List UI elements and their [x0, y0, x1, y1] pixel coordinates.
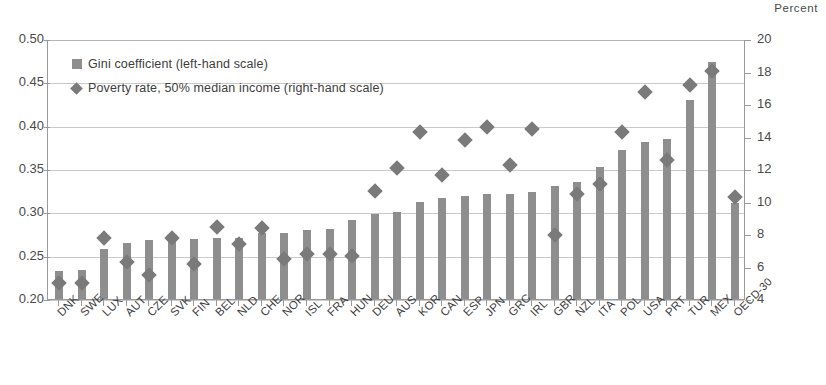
marker-JPN: [479, 120, 495, 136]
x-axis-tick: [666, 300, 667, 306]
bar-ESP: [461, 196, 469, 299]
x-axis-tick: [576, 300, 577, 306]
marker-GBR: [547, 227, 563, 243]
bar-TUR: [686, 100, 694, 299]
left-axis-tick: [44, 213, 50, 214]
marker-NOR: [277, 251, 293, 267]
legend-label-gini: Gini coefficient (left-hand scale): [88, 57, 268, 71]
bar-CAN: [438, 198, 446, 299]
x-axis-tick: [441, 300, 442, 306]
marker-IRL: [524, 121, 540, 137]
right-axis-tick-label: 6: [757, 259, 764, 274]
x-axis-labels: DNKSWELUXAUTCZESVKFINBELNLDCHENORISLFRAH…: [0, 306, 826, 385]
bar-IRL: [528, 192, 536, 299]
right-axis-tick-label: 8: [757, 226, 764, 241]
x-axis-tick: [216, 300, 217, 306]
left-axis-tick: [44, 40, 50, 41]
bar-USA: [641, 142, 649, 299]
marker-GRC: [502, 157, 518, 173]
right-axis-tick: [745, 170, 751, 171]
x-axis-tick: [374, 300, 375, 306]
x-axis-tick: [351, 300, 352, 306]
chart-legend: Gini coefficient (left-hand scale) Pover…: [72, 52, 384, 100]
left-axis-tick-label: 0.40: [19, 118, 44, 133]
marker-SWE: [74, 276, 90, 292]
legend-item-poverty: Poverty rate, 50% median income (right-h…: [72, 76, 384, 100]
marker-ITA: [592, 176, 608, 192]
marker-CZE: [142, 267, 158, 283]
marker-AUT: [119, 254, 135, 270]
left-axis-tick: [44, 300, 50, 301]
right-axis-tick: [745, 235, 751, 236]
x-axis-tick: [103, 300, 104, 306]
x-axis-tick: [734, 300, 735, 306]
x-axis-tick: [261, 300, 262, 306]
marker-CHE: [254, 220, 270, 236]
marker-NZL: [569, 186, 585, 202]
marker-TUR: [682, 77, 698, 93]
marker-PRT: [659, 152, 675, 168]
right-axis-tick: [745, 138, 751, 139]
x-axis-tick: [486, 300, 487, 306]
x-axis-tick: [148, 300, 149, 306]
bar-GRC: [506, 194, 514, 299]
marker-HUN: [344, 248, 360, 264]
marker-AUS: [389, 160, 405, 176]
x-axis-tick: [238, 300, 239, 306]
right-axis-tick-label: 14: [757, 129, 771, 144]
gini-poverty-chart: Percent DNKSWELUXAUTCZESVKFINBELNLDCHENO…: [0, 0, 826, 385]
bar-JPN: [483, 194, 491, 299]
bar-OECD-30: [731, 203, 739, 299]
marker-FRA: [322, 246, 338, 262]
right-axis-tick: [745, 203, 751, 204]
marker-OECD-30: [727, 189, 743, 205]
bar-MEX: [708, 62, 716, 300]
right-axis-tick-label: 12: [757, 161, 771, 176]
x-axis-tick: [126, 300, 127, 306]
right-axis-tick: [745, 40, 751, 41]
bar-KOR: [416, 202, 424, 299]
bar-LUX: [100, 249, 108, 299]
bar-ISL: [303, 230, 311, 299]
marker-SVK: [164, 230, 180, 246]
right-axis-tick: [745, 268, 751, 269]
bar-CHE: [258, 233, 266, 299]
x-axis-tick: [193, 300, 194, 306]
x-axis-tick: [531, 300, 532, 306]
x-axis-tick: [283, 300, 284, 306]
x-axis-tick: [509, 300, 510, 306]
marker-DNK: [52, 276, 68, 292]
bar-AUS: [393, 212, 401, 300]
marker-USA: [637, 84, 653, 100]
x-axis-tick: [711, 300, 712, 306]
x-axis-tick: [306, 300, 307, 306]
bar-SVK: [168, 240, 176, 299]
right-axis-tick-label: 16: [757, 96, 771, 111]
diamond-swatch-icon: [70, 82, 83, 95]
x-axis-tick: [464, 300, 465, 306]
x-axis-tick: [396, 300, 397, 306]
right-axis-tick: [745, 105, 751, 106]
marker-MEX: [704, 63, 720, 79]
legend-item-gini: Gini coefficient (left-hand scale): [72, 52, 384, 76]
marker-KOR: [412, 124, 428, 140]
left-axis-tick: [44, 257, 50, 258]
marker-ESP: [457, 133, 473, 149]
left-axis-tick-label: 0.45: [19, 74, 44, 89]
left-axis-tick-label: 0.30: [19, 204, 44, 219]
marker-CAN: [434, 167, 450, 183]
right-axis-tick-label: 18: [757, 64, 771, 79]
right-axis-tick-label: 4: [757, 291, 764, 306]
marker-LUX: [97, 230, 113, 246]
bar-AUT: [123, 243, 131, 299]
marker-FIN: [187, 256, 203, 272]
x-axis-tick: [171, 300, 172, 306]
left-axis-tick: [44, 83, 50, 84]
x-axis-tick: [554, 300, 555, 306]
bar-FRA: [326, 229, 334, 299]
left-axis-tick-label: 0.20: [19, 291, 44, 306]
x-axis-tick: [599, 300, 600, 306]
marker-DEU: [367, 183, 383, 199]
left-axis-tick-label: 0.25: [19, 248, 44, 263]
x-axis-tick: [644, 300, 645, 306]
